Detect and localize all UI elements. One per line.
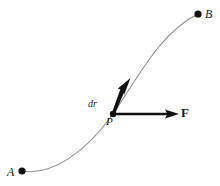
point-marker-A bbox=[18, 167, 25, 174]
physics-figure: A B P dr F bbox=[0, 0, 220, 186]
point-marker-B bbox=[194, 10, 201, 17]
label-force-vector: F bbox=[181, 106, 189, 119]
figure-canvas bbox=[0, 0, 220, 186]
label-point-A: A bbox=[7, 166, 14, 178]
label-point-B: B bbox=[205, 8, 212, 20]
label-point-P: P bbox=[106, 116, 113, 127]
label-displacement-vector: dr bbox=[88, 99, 97, 109]
curved-path-A-to-B bbox=[22, 14, 198, 172]
